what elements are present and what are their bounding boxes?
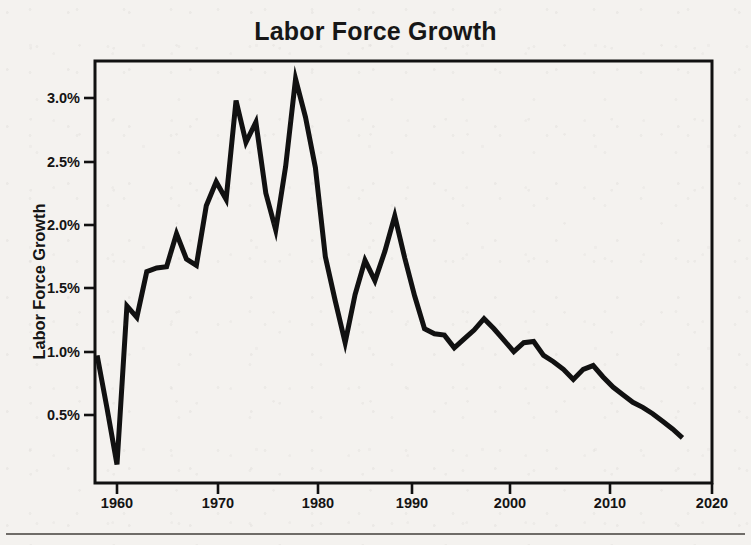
plot-area [0, 0, 751, 545]
footer-rule [6, 533, 745, 535]
x-axis-ticks [117, 483, 712, 494]
y-axis-ticks [84, 98, 95, 415]
data-series-line [97, 79, 682, 464]
chart-figure: Labor Force Growth Labor Force Growth 3.… [0, 0, 751, 545]
plot-frame [95, 61, 712, 483]
